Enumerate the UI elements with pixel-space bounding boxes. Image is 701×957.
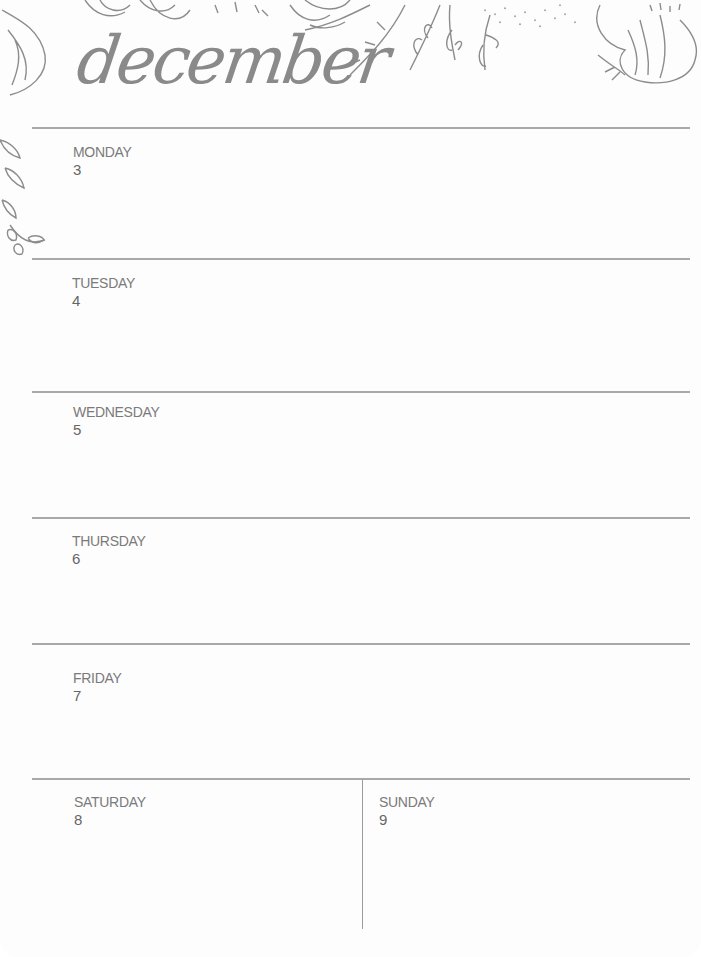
month-title: december — [73, 22, 393, 99]
day-name: SUNDAY — [379, 793, 435, 811]
day-date: 3 — [73, 161, 132, 179]
day-name: WEDNESDAY — [73, 403, 160, 421]
planner-page: december MONDAY 3 TUESDAY 4 WEDNESDAY 5 … — [0, 0, 701, 957]
divider-line — [32, 778, 690, 780]
day-name: MONDAY — [73, 143, 132, 161]
day-friday[interactable]: FRIDAY 7 — [73, 669, 122, 705]
day-wednesday[interactable]: WEDNESDAY 5 — [73, 403, 160, 439]
divider-line — [32, 258, 690, 260]
day-date: 7 — [73, 687, 122, 705]
day-monday[interactable]: MONDAY 3 — [73, 143, 132, 179]
day-name: SATURDAY — [74, 793, 146, 811]
divider-line — [32, 517, 690, 519]
day-name: TUESDAY — [72, 274, 135, 292]
divider-line — [32, 391, 690, 393]
leaf-sprig-icon — [0, 130, 50, 270]
day-date: 9 — [379, 811, 435, 829]
day-name: FRIDAY — [73, 669, 122, 687]
day-tuesday[interactable]: TUESDAY 4 — [72, 274, 135, 310]
divider-line — [32, 643, 690, 645]
divider-line — [32, 127, 690, 129]
day-date: 6 — [72, 550, 146, 568]
day-thursday[interactable]: THURSDAY 6 — [72, 532, 146, 568]
day-date: 4 — [72, 292, 135, 310]
weekend-divider — [362, 779, 363, 929]
day-saturday[interactable]: SATURDAY 8 — [74, 793, 146, 829]
day-date: 5 — [73, 421, 160, 439]
day-name: THURSDAY — [72, 532, 146, 550]
day-sunday[interactable]: SUNDAY 9 — [379, 793, 435, 829]
day-date: 8 — [74, 811, 146, 829]
